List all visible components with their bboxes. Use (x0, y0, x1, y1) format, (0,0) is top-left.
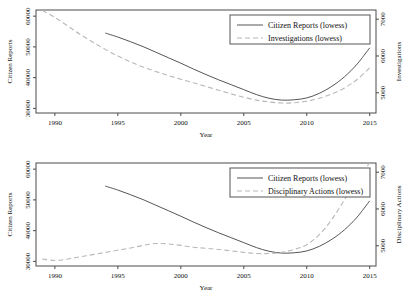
y2-tick-label: 6000 (379, 201, 387, 216)
y2-tick-label: 6000 (379, 48, 387, 63)
y-tick-label: 60000 (24, 7, 32, 25)
plot-area-top: 3000040000500006000050006000700019901995… (0, 0, 413, 153)
y-tick-label: 60000 (24, 160, 32, 178)
chart-panel-bottom: 3000040000500006000050006000700019901995… (0, 153, 413, 306)
x-tick-label: 2010 (300, 272, 315, 280)
x-tick-label: 1990 (48, 272, 63, 280)
y2-tick-label: 5000 (379, 238, 387, 253)
plot-area-bottom: 3000040000500006000050006000700019901995… (0, 153, 413, 307)
y-axis-title: Citizen Reports (6, 192, 14, 236)
y-tick-label: 50000 (24, 38, 32, 56)
chart-panel-top: 3000040000500006000050006000700019901995… (0, 0, 413, 153)
x-tick-label: 1990 (48, 119, 63, 127)
y-tick-label: 40000 (24, 221, 32, 239)
x-tick-label: 2010 (300, 119, 315, 127)
legend-label: Citizen Reports (lowess) (268, 174, 347, 183)
x-axis-title: Year (200, 284, 214, 292)
x-axis-title: Year (200, 131, 214, 139)
legend-label: Citizen Reports (lowess) (268, 21, 347, 30)
x-tick-label: 2000 (174, 272, 189, 280)
x-tick-label: 1995 (111, 119, 126, 127)
y2-tick-label: 7000 (379, 165, 387, 180)
x-tick-label: 2005 (237, 272, 252, 280)
y-axis-title: Citizen Reports (6, 39, 14, 83)
y2-axis-title: Investigations (395, 42, 403, 82)
legend-label: Disciplinary Actions (lowess) (268, 187, 363, 196)
x-tick-label: 1995 (111, 272, 126, 280)
x-tick-label: 2015 (363, 272, 378, 280)
y-tick-label: 30000 (24, 252, 32, 270)
y-tick-label: 40000 (24, 68, 32, 86)
y2-axis-title: Disciplinary Actions (395, 185, 403, 243)
y2-tick-label: 7000 (379, 12, 387, 27)
figure-container: 3000040000500006000050006000700019901995… (0, 0, 413, 307)
y-tick-label: 50000 (24, 191, 32, 209)
y-tick-label: 30000 (24, 99, 32, 117)
x-tick-label: 2000 (174, 119, 189, 127)
x-tick-label: 2005 (237, 119, 252, 127)
y2-tick-label: 5000 (379, 85, 387, 100)
legend-label: Investigations (lowess) (268, 34, 342, 43)
x-tick-label: 2015 (363, 119, 378, 127)
